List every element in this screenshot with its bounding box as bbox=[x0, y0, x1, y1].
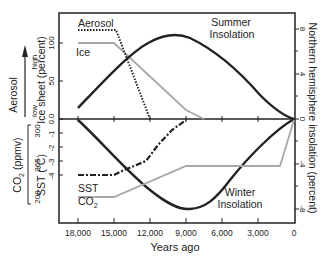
right-tick-labels: 8 4 0 -4 -8 bbox=[298, 27, 307, 213]
series-co2 bbox=[78, 120, 294, 197]
aerosol-low-label: low bbox=[30, 105, 39, 117]
x-axis-tick-labels: 18,000 15,000 12,000 9,000 6,000 3,000 0 bbox=[65, 228, 297, 238]
ice-tick-label: 0.0 bbox=[47, 113, 56, 125]
ice-tick-labels: 100 50 0.0 bbox=[47, 36, 56, 125]
ice-tick-label: 50 bbox=[47, 76, 56, 85]
right-tick-label: 0 bbox=[298, 117, 307, 122]
right-tick-label: 8 bbox=[298, 27, 307, 32]
series-ice bbox=[78, 43, 204, 119]
right-axis-title: Northern hemisphere insolation (percent) bbox=[307, 23, 319, 214]
x-tick-label: 0 bbox=[292, 228, 297, 238]
summer-label-line2: Insolation bbox=[210, 28, 255, 40]
winter-label-line1: Winter bbox=[225, 186, 256, 198]
aerosol-arrow-head-icon bbox=[22, 45, 28, 57]
co2-tick-label: 265 bbox=[33, 158, 42, 172]
ice-tick-label: 100 bbox=[47, 36, 56, 50]
x-axis-title: Years ago bbox=[150, 241, 199, 253]
co2-axis-title: CO2 (ppmv) bbox=[11, 137, 25, 192]
x-tick-label: 3,000 bbox=[247, 228, 269, 238]
series-sst bbox=[78, 120, 186, 175]
right-tick-label: 4 bbox=[298, 72, 307, 77]
right-tick-label: -8 bbox=[298, 205, 307, 213]
ice-series-label: Ice bbox=[76, 46, 90, 58]
sst-tick-label: -3 bbox=[47, 158, 56, 166]
right-tick-label: -4 bbox=[298, 160, 307, 168]
co2-tick-labels: 300 265 200 bbox=[33, 124, 42, 204]
summer-label-line1: Summer bbox=[211, 16, 251, 28]
co2-axis-bracket bbox=[28, 125, 31, 204]
aerosol-high-label: high bbox=[30, 54, 39, 69]
paleoclimate-chart: 18,000 15,000 12,000 9,000 6,000 3,000 0… bbox=[0, 0, 331, 260]
sst-tick-label: -4 bbox=[47, 172, 56, 180]
x-tick-label: 12,000 bbox=[137, 228, 163, 238]
sst-tick-label: -1 bbox=[47, 130, 56, 138]
sst-tick-labels: -1 -2 -3 -4 bbox=[47, 130, 56, 180]
sst-tick-label: -2 bbox=[47, 144, 56, 152]
co2-tick-label: 200 bbox=[33, 190, 42, 204]
co2-tick-label: 300 bbox=[33, 124, 42, 138]
sst-series-label: SST bbox=[78, 182, 99, 194]
winter-label-line2: Insolation bbox=[218, 198, 263, 210]
aerosol-axis-title: Aerosol bbox=[7, 77, 19, 113]
x-tick-label: 18,000 bbox=[65, 228, 91, 238]
x-tick-label: 6,000 bbox=[211, 228, 233, 238]
aerosol-series-label: Aerosol bbox=[78, 17, 114, 29]
series-winter-insolation bbox=[78, 119, 294, 209]
series-summer-insolation bbox=[78, 35, 294, 119]
x-tick-label: 9,000 bbox=[175, 228, 197, 238]
x-tick-label: 15,000 bbox=[101, 228, 127, 238]
